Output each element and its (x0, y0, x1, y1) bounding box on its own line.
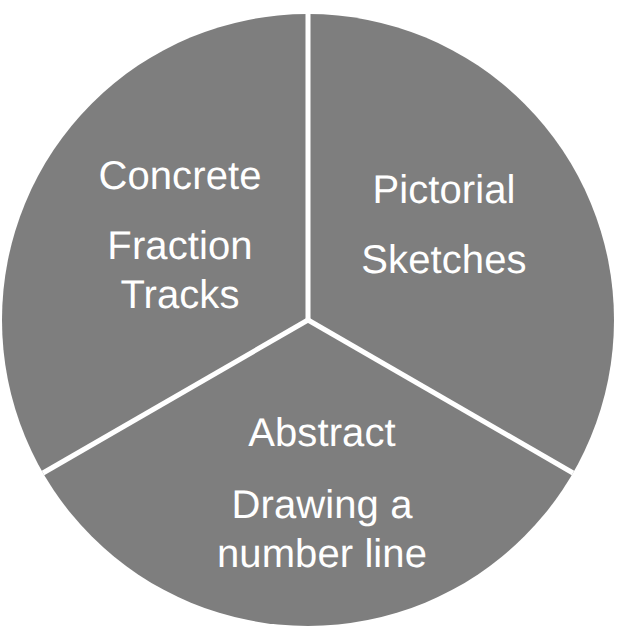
slice-label-concrete-detail: Fraction Tracks (60, 222, 300, 320)
slice-label-concrete-stage: Concrete (60, 152, 300, 201)
pie-chart-figure: Concrete Fraction Tracks Pictorial Sketc… (0, 0, 621, 644)
slice-label-pictorial-stage: Pictorial (324, 166, 564, 215)
slice-label-pictorial-detail: Sketches (324, 236, 564, 285)
slice-label-abstract-detail: Drawing a number line (182, 481, 462, 579)
slice-label-abstract-stage: Abstract (202, 409, 442, 458)
